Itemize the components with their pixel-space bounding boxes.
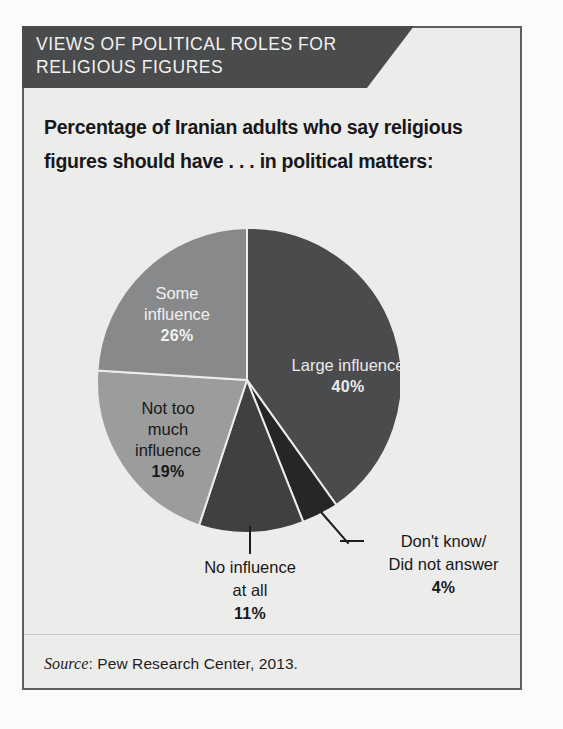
title-line-1: VIEWS OF POLITICAL ROLES FOR	[36, 33, 386, 56]
subtitle-line-2: figures should have . . . in political m…	[44, 144, 518, 178]
title-line-2: RELIGIOUS FIGURES	[36, 56, 386, 79]
callout-no-influence-at-all: No influence at all 11%	[170, 556, 330, 625]
infographic-figure: VIEWS OF POLITICAL ROLES FOR RELIGIOUS F…	[0, 0, 563, 729]
source-line: Source: Pew Research Center, 2013.	[44, 655, 298, 673]
slice-label-large-influence-pct: 40%	[268, 376, 428, 397]
slice-label-some-influence-line-2: influence	[116, 304, 238, 325]
slice-label-some-influence-line-1: Some	[116, 283, 238, 304]
slice-label-not-too-much: Not too much influence 19%	[104, 398, 232, 482]
slice-label-not-too-much-line-3: influence	[104, 440, 232, 461]
page-title: VIEWS OF POLITICAL ROLES FOR RELIGIOUS F…	[36, 33, 386, 79]
chart-subtitle: Percentage of Iranian adults who say rel…	[44, 110, 518, 178]
callout-dont-know: Don't know/ Did not answer 4%	[356, 530, 531, 599]
callout-dont-know-pct: 4%	[356, 576, 531, 599]
source-label: Source	[44, 655, 88, 672]
slice-label-large-influence: Large influence 40%	[268, 355, 428, 397]
callout-no-influence-line-2: at all	[170, 579, 330, 602]
slice-label-not-too-much-line-1: Not too	[104, 398, 232, 419]
slice-label-not-too-much-pct: 19%	[104, 461, 232, 482]
subtitle-line-1: Percentage of Iranian adults who say rel…	[44, 110, 518, 144]
slice-label-large-influence-text: Large influence	[268, 355, 428, 376]
callout-dont-know-line-1: Don't know/	[356, 530, 531, 553]
leader-line-no-influence	[249, 526, 251, 554]
slice-label-not-too-much-line-2: much	[104, 419, 232, 440]
slice-label-some-influence: Some influence 26%	[116, 283, 238, 346]
callout-no-influence-line-1: No influence	[170, 556, 330, 579]
callout-dont-know-line-2: Did not answer	[356, 553, 531, 576]
callout-no-influence-pct: 11%	[170, 602, 330, 625]
source-text: : Pew Research Center, 2013.	[88, 655, 298, 672]
slice-label-some-influence-pct: 26%	[116, 325, 238, 346]
source-divider	[24, 634, 520, 635]
